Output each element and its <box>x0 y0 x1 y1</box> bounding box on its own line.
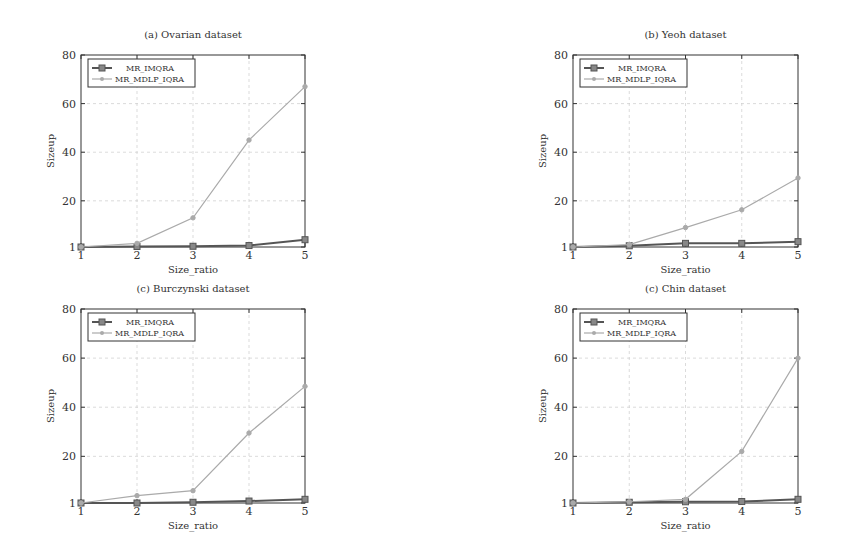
y-tick-label: 1 <box>561 241 568 254</box>
y-axis-label: Sizeup <box>537 389 548 423</box>
figure: (a) Ovarian dataset12040608012345Size_ra… <box>0 0 841 557</box>
chart-panel-2: (b) Yeoh dataset12040608012345Size_ratio… <box>537 29 802 276</box>
x-tick-label: 3 <box>682 505 689 518</box>
y-tick-label: 1 <box>69 241 76 254</box>
y-tick-label: 80 <box>554 49 568 62</box>
chart-panel-1: (a) Ovarian dataset12040608012345Size_ra… <box>45 29 309 276</box>
legend-label: MR_IMQRA <box>126 318 174 327</box>
diamond-marker-icon <box>79 245 83 249</box>
diamond-marker-icon <box>100 331 104 335</box>
x-tick-label: 2 <box>626 505 633 518</box>
square-marker-icon <box>795 496 801 502</box>
y-tick-label: 80 <box>554 303 568 316</box>
square-marker-icon <box>190 243 196 249</box>
x-tick-label: 3 <box>190 249 197 262</box>
y-tick-label: 60 <box>62 352 76 365</box>
diamond-marker-icon <box>191 489 195 493</box>
square-marker-icon <box>683 240 689 246</box>
x-tick-label: 5 <box>795 505 802 518</box>
x-tick-label: 5 <box>795 249 802 262</box>
diamond-marker-icon <box>592 331 596 335</box>
x-tick-label: 4 <box>246 249 253 262</box>
legend-label: MR_IMQRA <box>618 318 666 327</box>
x-axis-label: Size_ratio <box>168 520 218 532</box>
diamond-marker-icon <box>571 501 575 505</box>
diamond-marker-icon <box>627 500 631 504</box>
x-tick-label: 2 <box>626 249 633 262</box>
y-tick-label: 60 <box>62 98 76 111</box>
y-axis-label: Sizeup <box>537 134 548 168</box>
square-marker-icon <box>591 319 597 325</box>
legend-label: MR_MDLP_IQRA <box>115 75 184 84</box>
diamond-marker-icon <box>627 242 631 246</box>
diamond-marker-icon <box>740 449 744 453</box>
diamond-marker-icon <box>79 501 83 505</box>
square-marker-icon <box>99 65 105 71</box>
square-marker-icon <box>302 237 308 243</box>
square-marker-icon <box>99 319 105 325</box>
y-tick-label: 20 <box>62 450 76 463</box>
diamond-marker-icon <box>683 225 687 229</box>
x-tick-label: 3 <box>190 505 197 518</box>
x-tick-label: 4 <box>738 249 745 262</box>
x-tick-label: 1 <box>78 505 85 518</box>
x-axis-label: Size_ratio <box>660 264 710 276</box>
x-axis-label: Size_ratio <box>168 264 218 276</box>
chart-title: (a) Ovarian dataset <box>144 29 242 40</box>
y-tick-label: 40 <box>554 146 568 159</box>
legend: MR_IMQRAMR_MDLP_IQRA <box>580 313 687 341</box>
x-tick-label: 2 <box>134 505 141 518</box>
x-tick-label: 4 <box>738 505 745 518</box>
x-tick-label: 1 <box>570 249 577 262</box>
square-marker-icon <box>795 239 801 245</box>
square-marker-icon <box>739 499 745 505</box>
square-marker-icon <box>246 498 252 504</box>
legend-label: MR_IMQRA <box>618 64 666 73</box>
square-marker-icon <box>302 496 308 502</box>
diamond-marker-icon <box>592 77 596 81</box>
diamond-marker-icon <box>191 216 195 220</box>
diamond-marker-icon <box>740 208 744 212</box>
y-tick-label: 20 <box>554 450 568 463</box>
chart-title: (c) Burczynski dataset <box>136 283 249 294</box>
y-tick-label: 80 <box>62 303 76 316</box>
diamond-marker-icon <box>571 245 575 249</box>
square-marker-icon <box>591 65 597 71</box>
legend-label: MR_MDLP_IQRA <box>115 329 184 338</box>
y-tick-label: 40 <box>62 146 76 159</box>
legend-label: MR_MDLP_IQRA <box>607 75 676 84</box>
legend-label: MR_MDLP_IQRA <box>607 329 676 338</box>
legend: MR_IMQRAMR_MDLP_IQRA <box>580 59 687 87</box>
legend: MR_IMQRAMR_MDLP_IQRA <box>88 59 195 87</box>
chart-panel-4: (c) Chin dataset12040608012345Size_ratio… <box>537 283 802 532</box>
square-marker-icon <box>246 243 252 249</box>
y-axis-label: Sizeup <box>45 389 56 423</box>
x-tick-label: 1 <box>570 505 577 518</box>
diamond-marker-icon <box>303 84 307 88</box>
chart-title: (b) Yeoh dataset <box>644 29 726 40</box>
diamond-marker-icon <box>683 497 687 501</box>
diamond-marker-icon <box>303 384 307 388</box>
y-tick-label: 40 <box>554 401 568 414</box>
chart-title: (c) Chin dataset <box>645 283 726 294</box>
legend: MR_IMQRAMR_MDLP_IQRA <box>88 313 195 341</box>
y-tick-label: 1 <box>561 497 568 510</box>
x-tick-label: 2 <box>134 249 141 262</box>
diamond-marker-icon <box>135 493 139 497</box>
square-marker-icon <box>190 499 196 505</box>
square-marker-icon <box>134 500 140 506</box>
diamond-marker-icon <box>247 431 251 435</box>
diamond-marker-icon <box>100 77 104 81</box>
diamond-marker-icon <box>796 356 800 360</box>
legend-label: MR_IMQRA <box>126 64 174 73</box>
diamond-marker-icon <box>247 138 251 142</box>
square-marker-icon <box>739 240 745 246</box>
y-tick-label: 1 <box>69 497 76 510</box>
x-axis-label: Size_ratio <box>660 520 710 532</box>
diamond-marker-icon <box>135 241 139 245</box>
diamond-marker-icon <box>796 176 800 180</box>
y-axis-label: Sizeup <box>45 134 56 168</box>
x-tick-label: 5 <box>302 505 309 518</box>
x-tick-label: 1 <box>78 249 85 262</box>
chart-panel-3: (c) Burczynski dataset12040608012345Size… <box>45 283 309 532</box>
